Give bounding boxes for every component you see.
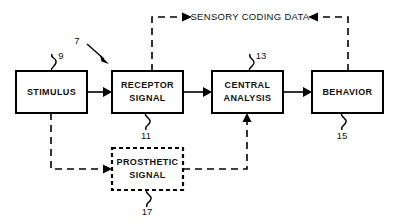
connector-stimulus-to-receptor — [87, 87, 112, 97]
block-receptor-signal[interactable]: RECEPTOR SIGNAL — [112, 71, 183, 113]
block-prosthetic-signal-label-line2: SIGNAL — [129, 170, 166, 180]
connector-prosthetic-to-central — [183, 113, 252, 169]
connector-receptor-to-central — [183, 87, 212, 97]
block-receptor-signal-label-line1: RECEPTOR — [121, 80, 174, 90]
reference-callout-9: 9 — [51, 50, 64, 71]
block-stimulus-label: STIMULUS — [27, 87, 76, 97]
arrow-head-right-icon — [303, 87, 312, 97]
sensory-coding-data-label: SENSORY CODING DATA — [190, 11, 309, 22]
block-central-analysis-label-line1: CENTRAL — [225, 80, 271, 90]
arrow-head-right-icon — [103, 165, 112, 174]
diagram-canvas: SENSORY CODING DATA 7 STIMULUS 9 RECEPTO… — [0, 0, 403, 224]
patent-figure: SENSORY CODING DATA 7 STIMULUS 9 RECEPTO… — [0, 0, 403, 224]
reference-callout-13: 13 — [249, 50, 266, 71]
arrow-head-diagonal-icon — [100, 55, 109, 64]
reference-numeral-15: 15 — [337, 130, 348, 141]
block-receptor-signal-label-line2: SIGNAL — [129, 93, 166, 103]
block-central-analysis[interactable]: CENTRAL ANALYSIS — [212, 71, 283, 113]
reference-numeral-7: 7 — [74, 35, 79, 46]
block-behavior-label: BEHAVIOR — [322, 87, 372, 97]
connector-stimulus-to-prosthetic — [51, 113, 112, 174]
reference-callout-11: 11 — [141, 113, 151, 141]
reference-numeral-9: 9 — [58, 50, 63, 61]
reference-numeral-13: 13 — [256, 50, 267, 61]
block-prosthetic-signal-label-line1: PROSTHETIC — [116, 157, 178, 167]
arrow-head-right-icon — [203, 87, 212, 97]
reference-numeral-11: 11 — [141, 130, 151, 141]
arrow-head-right-icon — [103, 87, 112, 97]
sensory-coding-right-branch — [308, 13, 348, 72]
block-central-analysis-label-line2: ANALYSIS — [224, 93, 272, 103]
reference-numeral-17: 17 — [142, 206, 153, 217]
reference-callout-17: 17 — [142, 190, 153, 217]
reference-callout-15: 15 — [337, 113, 348, 141]
block-behavior[interactable]: BEHAVIOR — [312, 71, 383, 113]
connector-central-to-behavior — [283, 87, 312, 97]
sensory-coding-left-branch — [152, 13, 192, 72]
reference-callout-7: 7 — [74, 35, 109, 64]
block-prosthetic-signal[interactable]: PROSTHETIC SIGNAL — [112, 148, 183, 190]
block-stimulus[interactable]: STIMULUS — [16, 71, 87, 113]
arrow-head-up-icon — [243, 113, 252, 122]
